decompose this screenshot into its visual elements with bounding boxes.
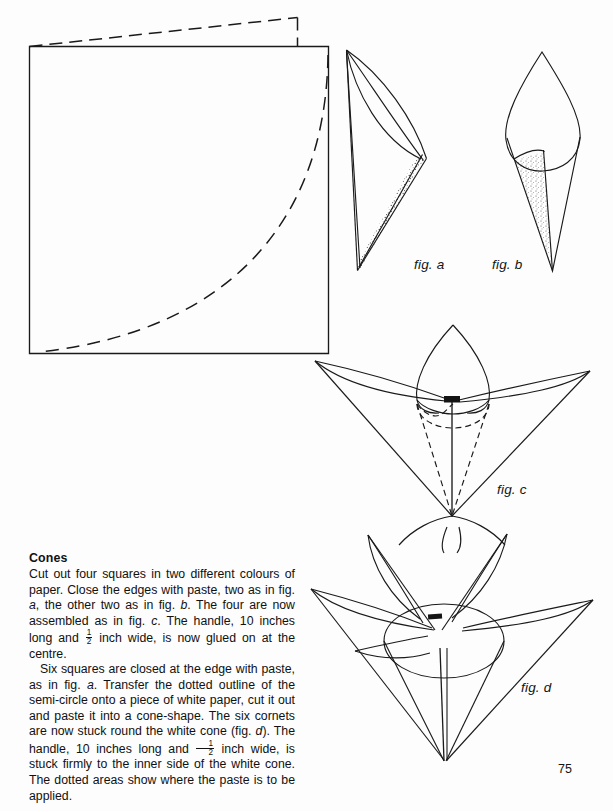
figure-reference: d <box>256 724 263 738</box>
figure-c-handle-mark <box>444 396 460 403</box>
figure-c-artwork <box>315 325 590 545</box>
book-page: fig. a fig. b fig. c fig. d Cones Cut ou… <box>0 0 613 811</box>
figure-reference: a <box>29 598 36 612</box>
figure-reference: c <box>151 614 157 628</box>
figure-reference: a <box>87 678 94 692</box>
paragraph-2: Six squares are closed at the edge with … <box>29 662 295 804</box>
figure-d-handle-mark <box>428 614 442 620</box>
paragraph-1: Cut out four squares in two different co… <box>29 567 295 662</box>
figure-caption-a: fig. a <box>414 257 444 272</box>
fraction-one-half: 12 <box>86 629 93 646</box>
instruction-text-column: Cones Cut out four squares in two differ… <box>29 551 295 804</box>
fraction-one-half: 12 <box>196 740 214 757</box>
figure-a-artwork <box>347 50 427 271</box>
paragraph-list: Cut out four squares in two different co… <box>29 567 295 804</box>
figure-caption-d: fig. d <box>521 680 551 695</box>
figure-reference: b <box>181 598 188 612</box>
section-heading: Cones <box>29 551 295 566</box>
figure-caption-b: fig. b <box>492 257 522 272</box>
page-number: 75 <box>558 762 572 776</box>
figure-b-artwork <box>506 52 580 271</box>
figure-square-pattern <box>30 18 329 354</box>
figure-caption-c: fig. c <box>497 482 527 497</box>
figure-d-artwork <box>311 527 593 761</box>
